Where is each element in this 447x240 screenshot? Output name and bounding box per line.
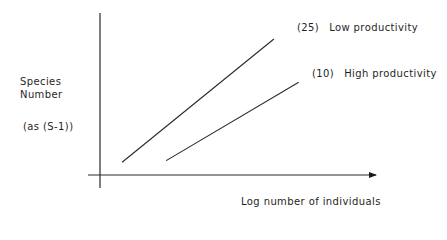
series-layer xyxy=(122,39,299,162)
series-name: Low productivity xyxy=(329,22,418,33)
series-name: High productivity xyxy=(344,68,437,79)
y-axis-label-note: (as (S-1)) xyxy=(23,121,73,132)
series-label-high-productivity: (10)High productivity xyxy=(312,68,437,79)
y-axis-label-text: Species Number xyxy=(20,75,80,101)
series-line-low-productivity xyxy=(122,39,274,162)
series-label-low-productivity: (25)Low productivity xyxy=(297,22,418,33)
x-axis-label: Log number of individuals xyxy=(241,196,381,207)
y-axis-label: Species Number xyxy=(20,75,80,101)
series-line-high-productivity xyxy=(166,82,299,160)
series-tag: (25) xyxy=(297,22,319,33)
series-tag: (10) xyxy=(312,68,334,79)
